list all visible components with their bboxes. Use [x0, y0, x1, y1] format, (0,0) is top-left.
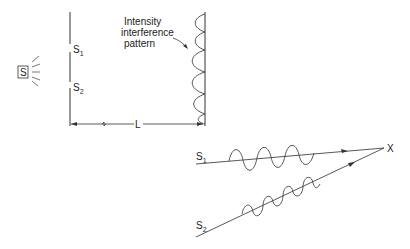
arrow-s1-icon: [341, 149, 348, 153]
wave-s1: [229, 145, 314, 170]
distance-label: L: [135, 119, 141, 130]
slit-1-label: S1: [73, 44, 84, 57]
meeting-point-label: X: [387, 143, 394, 154]
arrow-left-icon: [71, 122, 77, 126]
pattern-label-line-3: pattern: [124, 38, 155, 49]
path-s1-label: S1: [196, 151, 207, 164]
interference-diagram: S S1 S2 Intensity interference pattern L: [0, 0, 410, 249]
pattern-label-line-2: interference: [121, 27, 174, 38]
pattern-label-line-1: Intensity: [124, 16, 161, 27]
slit-2-label: S2: [73, 82, 84, 95]
path-diagram: S1 S2 X: [196, 143, 394, 237]
distance-dimension: L: [71, 118, 203, 130]
path-s2-label: S2: [196, 220, 207, 233]
light-source: S: [18, 56, 40, 86]
arrow-s2-icon: [348, 162, 355, 167]
source-label: S: [20, 67, 27, 78]
intensity-pattern: [192, 14, 205, 124]
light-rays-icon: [32, 56, 40, 86]
